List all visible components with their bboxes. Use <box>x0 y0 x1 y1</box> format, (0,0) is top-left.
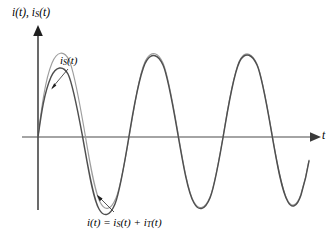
y-axis-label: i(t), iS(t) <box>12 7 50 20</box>
steady-state-annotation-tail: (t) <box>67 54 77 66</box>
x-axis-label: t <box>322 130 325 142</box>
x-axis-arrowhead <box>310 132 321 142</box>
y-axis-arrowhead <box>33 25 43 36</box>
transient-response-figure: i(t), iS(t) t iS(t) i(t) = iS(t) + iT(t) <box>0 0 336 247</box>
total-current-curve <box>38 55 309 215</box>
total-current-annotation-tail: (t) <box>151 216 161 228</box>
waveform-plot <box>0 0 336 247</box>
steady-state-annotation-label: iS(t) <box>60 55 77 67</box>
y-axis-label-main: i(t), i <box>12 6 35 18</box>
total-current-annotation-main: i(t) = i <box>87 216 116 228</box>
total-current-annotation-label: i(t) = iS(t) + iT(t) <box>87 217 162 229</box>
steady-state-curve <box>38 53 309 208</box>
y-axis-label-tail: (t) <box>39 6 50 18</box>
total-current-annotation-mid: (t) + i <box>120 216 146 228</box>
x-axis <box>22 132 321 142</box>
